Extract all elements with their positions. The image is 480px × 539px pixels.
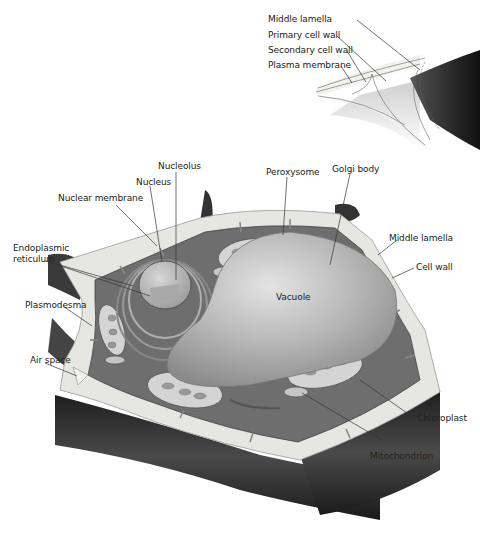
- plant-cell-diagram: Middle lamella Primary cell wall Seconda…: [0, 0, 480, 539]
- label-cell-wall: Cell wall: [416, 262, 453, 273]
- nucleus: [139, 261, 191, 309]
- label-nucleus: Nucleus: [136, 177, 171, 188]
- label-plasmodesma: Plasmodesma: [25, 300, 87, 311]
- label-inset-middle-lamella: Middle lamella: [268, 14, 332, 25]
- label-secondary-cell-wall: Secondary cell wall: [268, 45, 353, 56]
- label-vacuole: Vacuole: [276, 292, 310, 303]
- label-endoplasmic-reticulum-line2: reticulum: [13, 254, 55, 265]
- label-air-space: Air space: [30, 355, 71, 366]
- label-peroxysome: Peroxysome: [266, 167, 320, 178]
- label-golgi-body: Golgi body: [332, 164, 379, 175]
- label-primary-cell-wall: Primary cell wall: [268, 30, 340, 41]
- label-chloroplast: Chloroplast: [417, 413, 467, 424]
- label-middle-lamella: Middle lamella: [389, 233, 453, 244]
- label-mitochondrion: Mitochondrion: [370, 451, 433, 462]
- label-nucleolus: Nucleolus: [158, 161, 201, 172]
- label-endoplasmic-reticulum-line1: Endoplasmic: [13, 243, 69, 254]
- label-plasma-membrane: Plasma membrane: [268, 60, 351, 71]
- label-nuclear-membrane: Nuclear membrane: [58, 193, 143, 204]
